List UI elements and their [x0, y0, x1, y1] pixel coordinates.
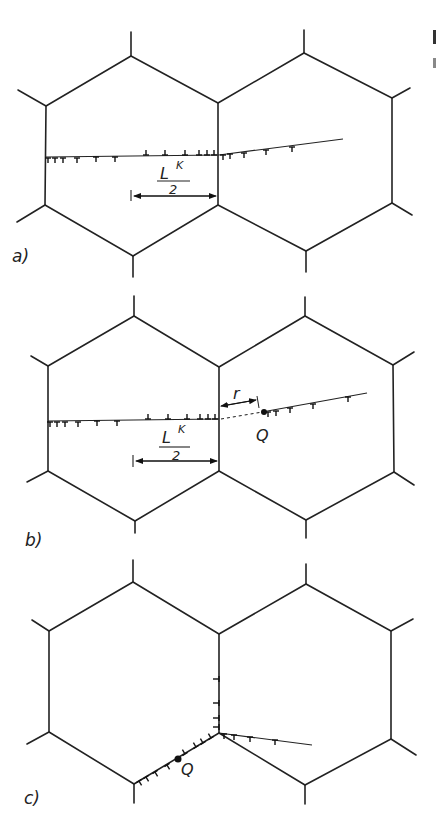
- length-annotation: L K 2: [133, 423, 217, 467]
- slip-plane: [46, 139, 343, 157]
- grain-left: [27, 296, 219, 533]
- length-label-L: L: [162, 428, 171, 447]
- dislocation-pileup-figure: L K 2 a): [0, 0, 436, 825]
- panel-b: r Q L K 2 b): [25, 296, 414, 550]
- distance-label-r: r: [233, 384, 241, 403]
- panel-a: L K 2 a): [12, 30, 412, 277]
- dislocations-above: [145, 414, 218, 419]
- length-label-superscript: K: [178, 423, 186, 436]
- grain-right: [219, 564, 416, 804]
- distance-r-annotation: r: [221, 384, 259, 408]
- panel-label-a: a): [12, 246, 29, 266]
- panel-c: Q c): [24, 560, 416, 808]
- panel-label-c: c): [24, 788, 40, 808]
- boundary-dislocations-vertical: [213, 676, 219, 730]
- source-label-q: Q: [181, 760, 194, 779]
- panel-label-b: b): [25, 530, 42, 550]
- source-point-q: [261, 409, 267, 415]
- length-annotation: L K 2: [131, 159, 216, 201]
- source-label-q: Q: [256, 426, 269, 445]
- grain-right: [219, 297, 414, 538]
- length-label-L: L: [160, 164, 169, 183]
- dislocations-below: [47, 397, 351, 427]
- length-label-denominator: 2: [169, 182, 177, 197]
- length-label-superscript: K: [176, 159, 184, 172]
- dislocations-above: [143, 150, 217, 155]
